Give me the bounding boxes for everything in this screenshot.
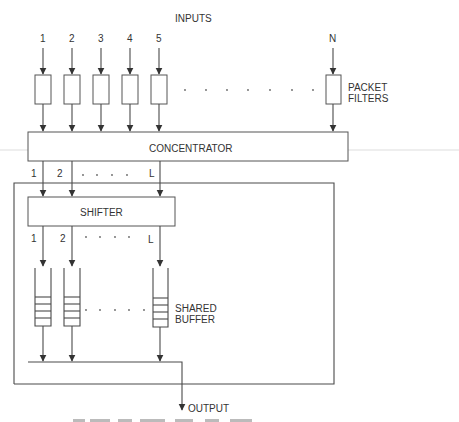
input-label-3: 3 [98,33,104,44]
packet-filter-3 [93,75,109,104]
packet-filters [35,75,341,104]
filter-ellipsis [184,89,314,91]
shifter-output-label-1: 1 [31,233,37,244]
shared-buffer-switch-diagram: INPUTS 1 2 3 4 5 N PACKET FILTERS [0,0,459,422]
shared-buffer-label-line2: BUFFER [175,314,215,325]
output-bus [28,362,182,410]
output-label: OUTPUT [188,403,229,414]
inputs-title: INPUTS [175,13,212,24]
concentrator-output-label-2: 2 [57,168,63,179]
packet-filter-n [326,75,341,104]
shifter-output-label-l: L [148,234,154,245]
concentrator-label: CONCENTRATOR [149,143,233,154]
packet-filter-5 [151,75,167,104]
shifter-output-ellipsis [85,236,130,238]
input-label-5: 5 [156,33,162,44]
shared-buffer-label-line1: SHARED [175,303,217,314]
buffer-queue-1 [35,268,51,326]
packet-filter-1 [35,75,51,104]
input-label-1: 1 [40,33,46,44]
shifter-to-buffer-arrows [43,226,160,266]
input-label-n: N [329,33,336,44]
packet-filters-label-line1: PACKET [348,82,387,93]
packet-filter-4 [122,75,138,104]
buffer-to-bus-arrows [43,326,160,361]
concentrator-output-label-1: 1 [31,168,37,179]
input-label-4: 4 [127,33,133,44]
concentrator-output-label-l: L [149,168,155,179]
input-arrows [43,48,333,74]
buffer-queue-l [153,268,168,327]
concentrator-output-ellipsis [82,174,128,176]
packet-filter-2 [64,75,80,104]
filter-to-concentrator-arrows [43,104,333,131]
input-label-2: 2 [69,33,75,44]
buffer-queue-2 [64,268,80,326]
shifter-label: SHIFTER [80,207,123,218]
buffer-ellipsis [85,309,145,311]
shifter-output-label-2: 2 [60,233,66,244]
input-labels: 1 2 3 4 5 N [40,33,336,44]
packet-filters-label-line2: FILTERS [348,93,389,104]
